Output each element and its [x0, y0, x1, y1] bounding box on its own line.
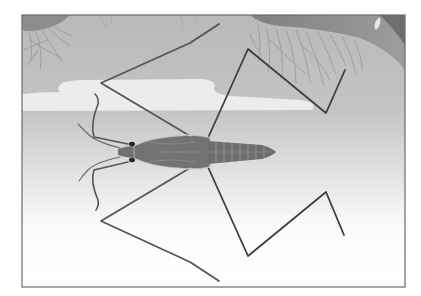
water-strider-illustration	[0, 0, 421, 296]
